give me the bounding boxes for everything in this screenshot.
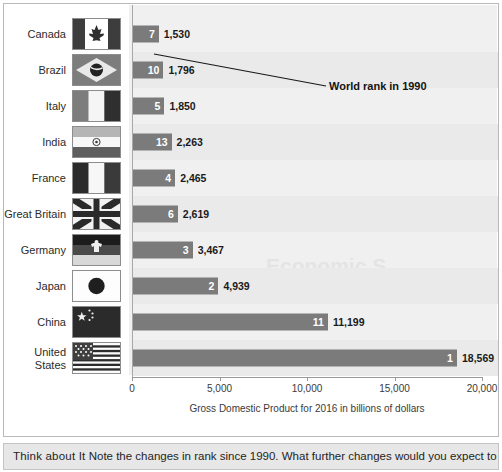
x-tick-mark — [395, 377, 396, 381]
country-label: United States — [0, 346, 66, 371]
think-about-it-note: Think about It Note the changes in rank … — [3, 443, 499, 470]
bar-container: 71,530 — [132, 26, 498, 43]
flag-italy-icon — [72, 90, 121, 122]
rank-badge: 7 — [132, 26, 159, 43]
value-label: 3,467 — [193, 242, 224, 259]
chart-row: Canada71,530 — [4, 16, 498, 52]
callout-label: World rank in 1990 — [329, 80, 427, 92]
x-tick-mark — [220, 377, 221, 381]
country-label: Italy — [0, 100, 66, 113]
x-tick-mark — [482, 377, 483, 381]
x-tick-label: 15,000 — [379, 383, 410, 394]
flag-brazil-icon — [72, 54, 121, 86]
chart-row: China1111,199 — [4, 304, 498, 340]
value-label: 11,199 — [328, 314, 365, 331]
flag-france-icon — [72, 162, 121, 194]
country-label: Brazil — [0, 64, 66, 77]
country-label: Great Britain — [0, 208, 66, 221]
rank-badge: 6 — [132, 206, 178, 223]
bar-container: 1111,199 — [132, 314, 498, 331]
x-tick-label: 20,000 — [467, 383, 498, 394]
chart-row: United States118,569 — [4, 340, 498, 376]
bar-container: 132,263 — [132, 134, 498, 151]
value-label: 2,465 — [175, 170, 206, 187]
x-tick-mark — [307, 377, 308, 381]
footer-lead-label: Think about It — [13, 450, 85, 462]
bar-container: 101,796 — [132, 62, 498, 79]
rank-badge: 2 — [132, 278, 218, 295]
x-tick-label: 10,000 — [292, 383, 323, 394]
x-axis-title: Gross Domestic Product for 2016 in billi… — [132, 403, 482, 414]
x-tick-label: 0 — [129, 383, 135, 394]
flag-germany-icon — [72, 234, 121, 266]
country-label: India — [0, 136, 66, 149]
bar-container: 62,619 — [132, 206, 498, 223]
rank-badge: 13 — [132, 134, 172, 151]
bar-container: 33,467 — [132, 242, 498, 259]
value-label: 1,850 — [164, 98, 195, 115]
x-tick-label: 5,000 — [207, 383, 232, 394]
value-label: 18,569 — [457, 350, 494, 367]
value-label: 2,619 — [178, 206, 209, 223]
rank-badge: 4 — [132, 170, 175, 187]
country-label: Canada — [0, 28, 66, 41]
flag-india-icon — [72, 126, 121, 158]
axis-left-spine — [132, 5, 133, 378]
bar-container: 42,465 — [132, 170, 498, 187]
rank-badge: 5 — [132, 98, 164, 115]
bar-container: 118,569 — [132, 350, 498, 367]
value-label: 2,263 — [172, 134, 203, 151]
footer-text-line: Think about It Note the changes in rank … — [13, 450, 497, 462]
value-label: 1,796 — [163, 62, 194, 79]
country-label: France — [0, 172, 66, 185]
bar-rows: Canada71,530Brazil101,796Italy51,850Indi… — [4, 4, 498, 436]
rank-badge: 10 — [132, 62, 163, 79]
flag-china-icon — [72, 306, 121, 338]
bar-container: 51,850 — [132, 98, 498, 115]
rank-badge: 1 — [132, 350, 457, 367]
country-label: China — [0, 316, 66, 329]
bar-container: 24,939 — [132, 278, 498, 295]
chart-row: India132,263 — [4, 124, 498, 160]
flag-united-states-icon — [72, 342, 121, 374]
chart-row: Great Britain62,619 — [4, 196, 498, 232]
chart-figure: Economic S Canada71,530Brazil101,796Ital… — [3, 3, 499, 437]
rank-badge: 3 — [132, 242, 193, 259]
value-label: 1,530 — [159, 26, 190, 43]
country-label: Germany — [0, 244, 66, 257]
chart-row: Germany33,467 — [4, 232, 498, 268]
value-label: 4,939 — [218, 278, 249, 295]
chart-row: Japan24,939 — [4, 268, 498, 304]
flag-japan-icon — [72, 270, 121, 302]
rank-badge: 11 — [132, 314, 328, 331]
country-label: Japan — [0, 280, 66, 293]
chart-row: Italy51,850 — [4, 88, 498, 124]
chart-row: France42,465 — [4, 160, 498, 196]
x-tick-mark — [132, 377, 133, 381]
footer-body-text: Note the changes in rank since 1990. Wha… — [89, 450, 497, 462]
flag-canada-icon — [72, 18, 121, 50]
flag-great-britain-icon — [72, 198, 121, 230]
